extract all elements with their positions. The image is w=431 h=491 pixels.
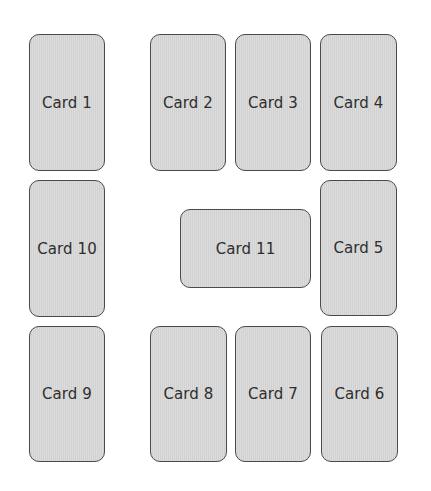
card-8[interactable]: Card 8 xyxy=(150,326,227,462)
card-4[interactable]: Card 4 xyxy=(320,34,397,171)
card-label: Card 2 xyxy=(163,94,213,112)
card-label: Card 11 xyxy=(216,240,276,258)
card-1[interactable]: Card 1 xyxy=(29,34,105,171)
card-10[interactable]: Card 10 xyxy=(29,180,105,317)
card-6[interactable]: Card 6 xyxy=(321,326,398,462)
card-label: Card 3 xyxy=(248,94,298,112)
card-label: Card 8 xyxy=(163,385,213,403)
card-label: Card 6 xyxy=(334,385,384,403)
card-label: Card 4 xyxy=(333,94,383,112)
card-label: Card 7 xyxy=(248,385,298,403)
card-5[interactable]: Card 5 xyxy=(320,180,397,316)
card-label: Card 5 xyxy=(333,239,383,257)
card-label: Card 1 xyxy=(42,94,92,112)
card-label: Card 10 xyxy=(37,240,97,258)
card-7[interactable]: Card 7 xyxy=(235,326,311,462)
card-label: Card 9 xyxy=(42,385,92,403)
card-2[interactable]: Card 2 xyxy=(150,34,226,171)
card-9[interactable]: Card 9 xyxy=(29,326,105,462)
card-3[interactable]: Card 3 xyxy=(235,34,311,171)
card-11[interactable]: Card 11 xyxy=(180,209,311,288)
